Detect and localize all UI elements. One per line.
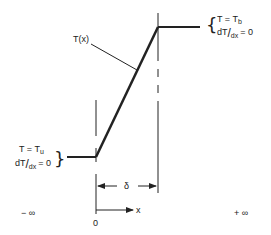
svg-text:T = Tb: T = Tb (217, 14, 242, 25)
upstream-condition: T = Tu dT/dx= 0 } (15, 144, 65, 171)
svg-text:dT/dx= 0: dT/dx= 0 (217, 26, 253, 40)
temperature-ramp-line (96, 27, 158, 157)
svg-text:dT/dx= 0: dT/dx= 0 (15, 157, 51, 171)
svg-text:T = Tu: T = Tu (19, 144, 44, 155)
plus-infinity-label: + ∞ (234, 208, 248, 218)
delta-label: δ (124, 181, 129, 191)
minus-infinity-label: − ∞ (21, 208, 35, 218)
curve-label: T(x) (73, 34, 89, 44)
upstream-brace: } (54, 148, 65, 169)
downstream-condition: { T = Tb dT/dx= 0 (206, 14, 253, 40)
curve-label-leader (91, 44, 137, 70)
downstream-brace: { (206, 14, 217, 35)
temperature-profile-diagram: T(x) { T = Tb dT/dx= 0 T = Tu dT/dx= 0 }… (0, 0, 271, 235)
origin-label: 0 (93, 218, 98, 228)
x-axis-label: x (136, 205, 141, 215)
